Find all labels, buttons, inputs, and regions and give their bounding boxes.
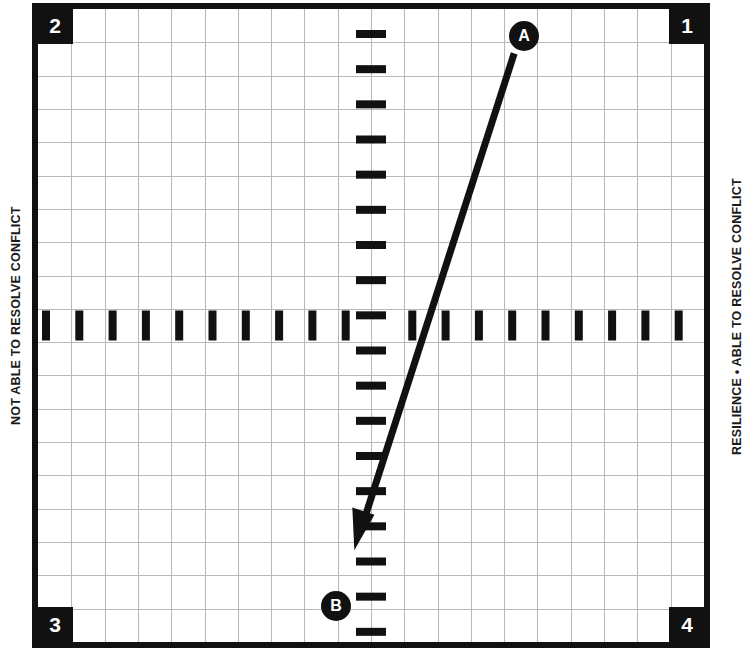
right-axis-caption: RESILIENCE • ABLE TO RESOLVE CONFLICT xyxy=(730,195,744,455)
quadrant-badge-3: 3 xyxy=(38,607,73,642)
quadrant-badge-1: 1 xyxy=(669,9,704,44)
chart-canvas: NOT ABLE TO RESOLVE CONFLICT RESILIENCE … xyxy=(0,0,750,658)
trajectory-arrow xyxy=(38,9,704,642)
arrow-head xyxy=(352,508,374,551)
plot-area: 2 1 3 4 A B xyxy=(38,9,704,642)
arrow-shaft xyxy=(363,53,514,523)
quadrant-badge-2: 2 xyxy=(38,9,73,44)
quadrant-badge-4: 4 xyxy=(669,607,704,642)
data-point-marker-b[interactable]: B xyxy=(321,591,351,621)
data-point-marker-a[interactable]: A xyxy=(509,21,539,51)
chart-frame: 2 1 3 4 A B xyxy=(32,3,710,648)
left-axis-caption: NOT ABLE TO RESOLVE CONFLICT xyxy=(9,225,23,425)
